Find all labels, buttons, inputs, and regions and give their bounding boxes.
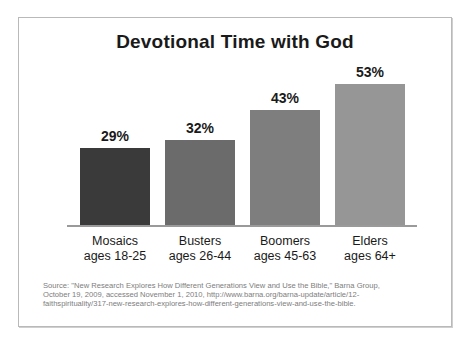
bar-group: 32% <box>165 65 235 225</box>
source-citation: Source: "New Research Explores How Diffe… <box>43 281 433 309</box>
chart-frame: Devotional Time with God 29% 32% 43% 53%… <box>18 17 452 327</box>
bar[interactable] <box>165 140 235 225</box>
category-name: Boomers <box>260 234 310 248</box>
bar-value-label: 29% <box>80 128 150 144</box>
category-age-range: ages 45-63 <box>237 249 333 264</box>
source-line-3: faithspirituality/317-new-research-explo… <box>43 299 433 308</box>
bar-group: 53% <box>335 65 405 225</box>
category-name: Mosaics <box>92 234 138 248</box>
bar[interactable] <box>80 148 150 225</box>
category-age-range: ages 26-44 <box>152 249 248 264</box>
category-name: Busters <box>179 234 221 248</box>
bar-value-label: 32% <box>165 120 235 136</box>
axis-baseline <box>67 225 417 227</box>
bar-group: 29% <box>80 65 150 225</box>
bar[interactable] <box>250 110 320 225</box>
category-age-range: ages 18-25 <box>67 249 163 264</box>
category-age-range: ages 64+ <box>322 249 418 264</box>
bar[interactable] <box>335 84 405 225</box>
source-line-1: Source: "New Research Explores How Diffe… <box>43 281 433 290</box>
category-name: Elders <box>352 234 387 248</box>
bar-value-label: 43% <box>250 90 320 106</box>
bar-group: 43% <box>250 65 320 225</box>
category-label: Mosaics ages 18-25 <box>67 234 163 264</box>
category-label: Busters ages 26-44 <box>152 234 248 264</box>
source-line-2: October 19, 2009, accessed November 1, 2… <box>43 290 433 299</box>
bar-value-label: 53% <box>335 64 405 80</box>
category-label: Elders ages 64+ <box>322 234 418 264</box>
category-label: Boomers ages 45-63 <box>237 234 333 264</box>
